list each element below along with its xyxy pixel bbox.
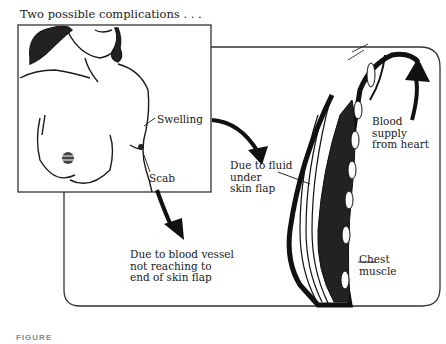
arrow-swelling-icon [212, 120, 258, 152]
label-swelling: Swelling [157, 114, 203, 126]
arrow-blood-supply-icon [412, 75, 417, 120]
label-chest-muscle: Chest muscle [359, 254, 397, 277]
scab-marker [138, 144, 144, 150]
diagram-canvas [0, 0, 446, 344]
nipple-marker [62, 152, 74, 164]
label-fluid: Due to fluid under skin flap [230, 160, 292, 195]
figure-caption: FIGURE [16, 333, 52, 342]
label-blood-supply: Blood supply from heart [372, 116, 429, 151]
label-blood-vessel: Due to blood vessel not reaching to end … [130, 249, 234, 284]
cross-section-illustration [289, 44, 418, 305]
label-scab: Scab [149, 173, 175, 185]
